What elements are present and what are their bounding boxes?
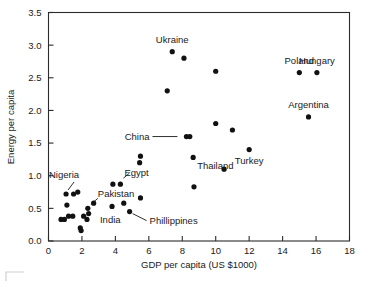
point-label-turkey: Turkey [235, 155, 264, 166]
data-point [86, 211, 91, 216]
point-label-pakistan: Pakistan [98, 188, 134, 199]
x-axis-title: GDP per capita (US $1000) [141, 259, 257, 270]
y-tick-label: 3.5 [28, 7, 41, 18]
x-tick-label: 4 [113, 245, 118, 256]
data-point [213, 69, 218, 74]
point-label-ukraine: Ukraine [156, 34, 189, 45]
x-tick-label: 6 [146, 245, 151, 256]
y-axis-title: Energy per capita [5, 89, 16, 164]
data-point [137, 160, 142, 165]
point-label-phillippines: Phillippines [150, 215, 198, 226]
data-point [91, 201, 96, 206]
x-tick-label: 16 [311, 245, 322, 256]
data-point [84, 217, 89, 222]
data-point [306, 114, 311, 119]
data-point [247, 147, 252, 152]
data-point [314, 70, 319, 75]
data-point [181, 56, 186, 61]
data-point [70, 214, 75, 219]
data-point [75, 189, 80, 194]
data-point [187, 134, 192, 139]
scatter-chart: 024681012141618 0.00.51.01.52.02.53.03.5… [0, 0, 374, 283]
point-label-china: China [125, 131, 151, 142]
data-point [118, 182, 123, 187]
data-point [63, 191, 68, 196]
point-label-argentina: Argentina [288, 99, 329, 110]
data-point [62, 217, 67, 222]
data-point [230, 127, 235, 132]
x-tick-label: 0 [46, 245, 51, 256]
data-point [165, 88, 170, 93]
data-point [127, 209, 132, 214]
x-tick-label: 12 [244, 245, 255, 256]
x-tick-label: 14 [277, 245, 288, 256]
data-point [191, 155, 196, 160]
data-point [297, 70, 302, 75]
y-tick-label: 2.0 [28, 105, 41, 116]
x-tick-label: 8 [180, 245, 185, 256]
point-label-thailand: Thailand [197, 160, 233, 171]
data-point [79, 228, 84, 233]
y-tick-label: 1.5 [28, 137, 41, 148]
data-point [64, 202, 69, 207]
x-tick-label: 18 [344, 245, 355, 256]
point-label-india: India [100, 214, 121, 225]
data-point [121, 201, 126, 206]
x-tick-label: 10 [210, 245, 221, 256]
data-point [213, 121, 218, 126]
y-tick-label: 2.5 [28, 72, 41, 83]
data-point [109, 204, 114, 209]
point-label-nigeria: Nigeria [49, 169, 80, 180]
data-point [191, 184, 196, 189]
chart-canvas: 024681012141618 0.00.51.01.52.02.53.03.5… [0, 0, 374, 283]
data-point [170, 49, 175, 54]
data-point [85, 206, 90, 211]
y-tick-label: 0.0 [28, 235, 41, 246]
y-tick-label: 1.0 [28, 170, 41, 181]
x-tick-label: 2 [79, 245, 84, 256]
y-tick-label: 3.0 [28, 40, 41, 51]
data-point [138, 195, 143, 200]
y-tick-label: 0.5 [28, 203, 41, 214]
data-point [110, 182, 115, 187]
point-label-hungary: Hungary [299, 55, 335, 66]
point-label-egypt: Egypt [124, 167, 149, 178]
data-point [138, 154, 143, 159]
